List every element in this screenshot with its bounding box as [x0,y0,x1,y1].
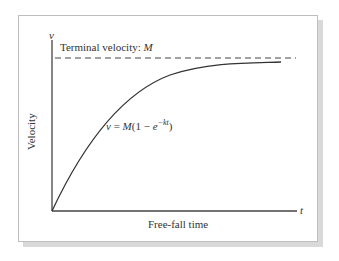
asymptote-label: Terminal velocity: M [60,41,153,53]
y-axis-label: Velocity [25,113,37,150]
x-axis-symbol: t [300,204,303,216]
x-axis-label: Free-fall time [148,218,208,230]
velocity-curve [52,62,281,211]
y-axis-symbol: v [49,29,54,41]
equation-label: v = M(1 − e−kt) [106,118,172,132]
